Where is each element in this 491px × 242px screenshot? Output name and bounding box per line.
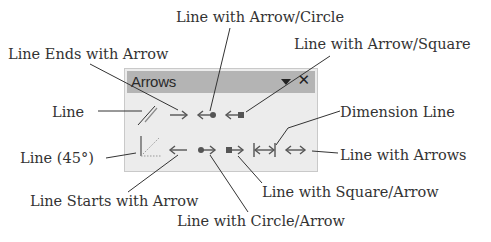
callout-leader-lines — [0, 0, 491, 242]
